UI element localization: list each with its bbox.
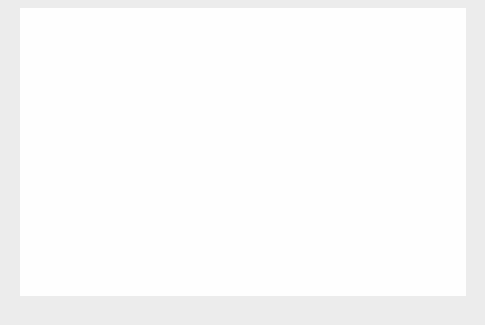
- figure-container: 0102030405060 0100200300400 Bots (thousa…: [0, 0, 485, 325]
- plot-panel: [20, 8, 466, 296]
